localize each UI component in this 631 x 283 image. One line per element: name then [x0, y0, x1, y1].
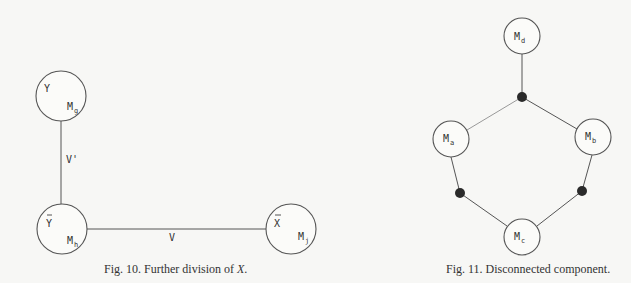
set-label: Y	[44, 83, 50, 94]
machine-label: M	[443, 133, 449, 144]
machine-label: M	[514, 231, 520, 242]
machine-label: M	[585, 131, 591, 142]
figures-canvas: Y M g Y M h X M j V' V	[0, 0, 631, 283]
node-y: Y M g	[36, 71, 86, 121]
edge-junction-c-right	[537, 191, 582, 226]
node-m-a: M a	[433, 121, 469, 157]
edge-b-junction	[582, 155, 592, 191]
fig11-caption: Fig. 11. Disconnected component.	[446, 262, 610, 277]
edge-hub-a	[467, 97, 522, 130]
machine-subscript: b	[592, 137, 596, 145]
junction-dot-top	[517, 92, 527, 102]
edge-label-v: V	[169, 232, 175, 243]
node-m-b: M b	[575, 119, 611, 155]
fig10-caption: Fig. 10. Further division of X.	[104, 262, 247, 277]
fig11-diagram: M d M a M b M c	[433, 18, 611, 255]
node-x-bar: X M j	[266, 204, 316, 254]
junction-dot-left	[455, 188, 465, 198]
node-m-d: M d	[504, 18, 540, 54]
machine-label: M	[67, 101, 73, 112]
machine-subscript: c	[521, 237, 525, 245]
fig10-diagram: Y M g Y M h X M j V' V	[36, 71, 316, 254]
node-m-c: M c	[504, 219, 540, 255]
caption-text: Fig. 10. Further division of	[104, 262, 237, 276]
machine-subscript: g	[74, 107, 78, 115]
machine-subscript: a	[450, 139, 454, 147]
edge-hub-b	[522, 97, 577, 129]
machine-subscript: h	[74, 241, 78, 249]
machine-subscript: j	[305, 237, 309, 245]
edge-junction-c-left	[460, 193, 507, 226]
machine-subscript: d	[521, 37, 525, 45]
caption-punct: .	[244, 262, 247, 276]
edge-label-v-prime: V'	[66, 154, 78, 165]
junction-dot-right	[577, 186, 587, 196]
edge-a-junction	[451, 157, 460, 193]
set-label: Y	[46, 218, 52, 229]
node-y-bar: Y M h	[37, 204, 87, 254]
set-label: X	[274, 218, 280, 229]
machine-label: M	[298, 231, 304, 242]
machine-label: M	[67, 235, 73, 246]
machine-label: M	[514, 31, 520, 42]
